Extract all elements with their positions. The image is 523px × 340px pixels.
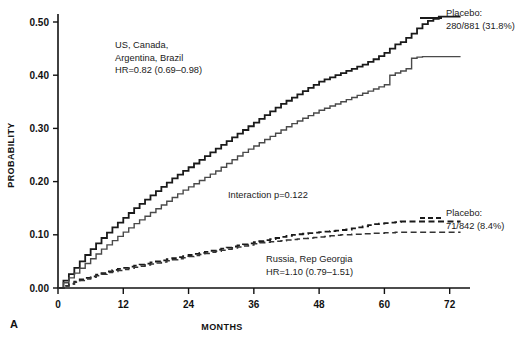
annotation-subgroup-1: US, Canada, — [115, 40, 168, 50]
x-tick-label: 60 — [379, 299, 391, 310]
annotation-interaction-p: Interaction p=0.122 — [228, 190, 308, 200]
annotation-subgroup-1: Argentina, Brazil — [115, 53, 183, 63]
x-tick-label: 24 — [183, 299, 195, 310]
annotation-subgroup-2: HR=1.10 (0.79–1.51) — [266, 267, 353, 277]
kaplan-meier-chart: 0.000.100.200.300.400.500122436486072MON… — [0, 0, 523, 340]
y-axis-title: PROBABILITY — [6, 122, 16, 187]
x-tick-label: 36 — [248, 299, 260, 310]
curve-series-2 — [58, 222, 461, 289]
y-tick-label: 0.50 — [30, 17, 50, 28]
curve-label-placebo-upper: Placebo: — [446, 8, 482, 18]
annotation-subgroup-1: HR=0.82 (0.69–0.98) — [115, 65, 202, 75]
panel-letter: A — [10, 318, 18, 330]
y-tick-label: 0.20 — [30, 176, 50, 187]
y-tick-label: 0.30 — [30, 123, 50, 134]
curve-label-placebo-lower: 71/842 (8.4%) — [446, 221, 504, 231]
y-tick-label: 0.10 — [30, 229, 50, 240]
x-tick-label: 72 — [444, 299, 456, 310]
curve-label-placebo-lower: Placebo: — [446, 208, 482, 218]
x-tick-label: 48 — [314, 299, 326, 310]
x-axis-title: MONTHS — [201, 322, 242, 332]
y-tick-label: 0.00 — [30, 283, 50, 294]
curve-label-placebo-upper: 280/881 (31.8%) — [446, 21, 515, 31]
x-tick-label: 12 — [118, 299, 130, 310]
curve-series-1 — [58, 57, 461, 288]
x-tick-label: 0 — [55, 299, 61, 310]
annotation-subgroup-2: Russia, Rep Georgia — [266, 254, 353, 264]
y-tick-label: 0.40 — [30, 70, 50, 81]
